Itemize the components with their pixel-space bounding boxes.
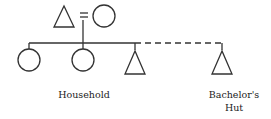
bachelors-hut-label-line2: Hut <box>199 101 269 114</box>
father-triangle-icon <box>54 6 74 27</box>
household-label: Household <box>44 88 124 101</box>
marriage-equals-icon <box>80 13 88 17</box>
daughter-2-circle-icon <box>72 49 94 71</box>
kinship-diagram: Household Bachelor's Hut <box>0 0 271 119</box>
bachelor-son-triangle-icon <box>212 51 232 74</box>
mother-circle-icon <box>93 5 115 27</box>
son-triangle-icon <box>125 51 145 74</box>
bachelors-hut-label-line1: Bachelor's <box>199 88 269 101</box>
daughter-1-circle-icon <box>18 49 40 71</box>
